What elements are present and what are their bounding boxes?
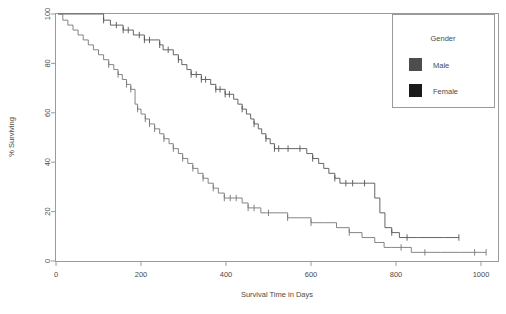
y-axis-ticks: 020406080100 <box>43 8 56 263</box>
y-tick-label: 100 <box>43 8 52 21</box>
legend-label-female: Female <box>433 87 458 96</box>
x-tick-label: 400 <box>220 270 233 279</box>
x-tick-label: 200 <box>135 270 148 279</box>
legend: Gender Male Female <box>393 15 495 108</box>
y-tick-label: 20 <box>43 207 52 215</box>
km-survival-chart: 020406080100 02004006008001000 Survival … <box>0 0 506 314</box>
legend-label-male: Male <box>433 61 449 70</box>
y-tick-label: 40 <box>43 158 52 166</box>
y-tick-label: 0 <box>43 259 52 263</box>
legend-swatch-male <box>409 58 422 71</box>
chart-canvas: 020406080100 02004006008001000 Survival … <box>0 0 506 314</box>
legend-title: Gender <box>430 34 456 43</box>
x-tick-label: 0 <box>54 270 58 279</box>
x-tick-label: 1000 <box>473 270 490 279</box>
x-axis-ticks: 02004006008001000 <box>54 261 489 279</box>
x-tick-label: 600 <box>305 270 318 279</box>
y-tick-label: 60 <box>43 109 52 117</box>
x-axis-title: Survival Time in Days <box>241 290 313 299</box>
y-tick-label: 80 <box>43 59 52 67</box>
x-tick-label: 800 <box>390 270 403 279</box>
y-axis-title: % Surviving <box>7 117 16 157</box>
legend-swatch-female <box>409 84 422 97</box>
